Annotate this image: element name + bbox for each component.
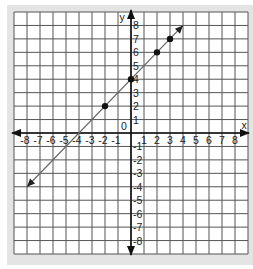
x-tick-label: 8: [232, 134, 238, 146]
data-point: [128, 76, 134, 82]
x-tick-label: 3: [167, 134, 173, 146]
data-point: [154, 49, 160, 55]
y-axis-label: y: [119, 11, 125, 23]
coordinate-plane: -8-7-6-5-4-3-2-112345678-8-7-6-5-4-3-2-1…: [0, 0, 253, 269]
y-tick-label: -8: [133, 235, 142, 247]
y-tick-label: -6: [133, 208, 142, 220]
y-tick-label: 6: [133, 46, 139, 58]
y-tick-label: -2: [133, 154, 142, 166]
x-tick-label: 2: [154, 134, 160, 146]
y-tick-label: 7: [133, 33, 139, 45]
y-tick-label: 1: [133, 114, 139, 126]
x-tick-label: 5: [193, 134, 199, 146]
y-tick-label: -4: [133, 181, 142, 193]
y-tick-label: 2: [133, 100, 139, 112]
y-tick-label: -3: [133, 167, 142, 179]
x-axis-label: x: [241, 119, 247, 131]
y-tick-label: -5: [133, 194, 142, 206]
origin-label: 0: [121, 120, 127, 132]
x-tick-label: -7: [33, 134, 42, 146]
y-tick-label: 8: [133, 19, 139, 31]
x-tick-label: 7: [219, 134, 225, 146]
x-tick-label: -6: [46, 134, 55, 146]
y-tick-label: -1: [133, 140, 142, 152]
x-tick-label: -3: [85, 134, 94, 146]
y-tick-label: 5: [133, 60, 139, 72]
x-tick-label: -2: [98, 134, 107, 146]
y-tick-label: 3: [133, 87, 139, 99]
y-tick-label: -7: [133, 221, 142, 233]
data-point: [167, 36, 173, 42]
x-tick-label: -8: [20, 134, 29, 146]
data-point: [102, 103, 108, 109]
x-tick-label: -1: [111, 134, 120, 146]
x-tick-label: 6: [206, 134, 212, 146]
x-tick-label: 4: [180, 134, 186, 146]
